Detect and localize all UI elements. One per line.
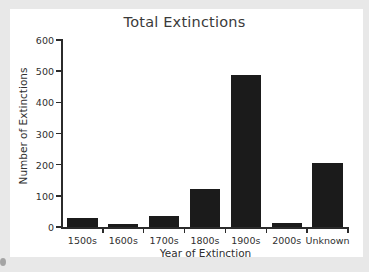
chart-title: Total Extinctions	[0, 14, 369, 30]
corner-artifact	[0, 258, 6, 266]
x-axis-tick-label: 2000s	[272, 235, 301, 246]
x-axis-tick	[102, 227, 103, 233]
x-axis-tick	[306, 227, 307, 233]
x-axis-tick-label: 1900s	[231, 235, 260, 246]
bar-1600s	[108, 224, 138, 227]
figure-frame: Total Extinctions 0100200300400500600 15…	[0, 0, 369, 272]
x-axis-tick	[184, 227, 185, 233]
x-axis-tick	[266, 227, 267, 233]
x-axis-tick-label: 1600s	[109, 235, 138, 246]
x-axis-tick	[143, 227, 144, 233]
bar-1800s	[190, 189, 220, 227]
y-axis-title: Number of Extinctions	[17, 56, 29, 196]
y-axis-tick-label: 0	[20, 222, 54, 233]
x-axis-title: Year of Extinction	[62, 247, 349, 259]
y-axis-tick-label: 600	[20, 35, 54, 46]
x-axis-tick-label: 1700s	[150, 235, 179, 246]
bar-unknown	[312, 163, 342, 227]
bar-1700s	[149, 216, 179, 227]
bar-1500s	[67, 218, 97, 227]
x-axis-tick	[225, 227, 226, 233]
bar-1900s	[231, 75, 261, 227]
bar-series	[62, 40, 349, 227]
x-axis-tick-label: 1800s	[190, 235, 219, 246]
x-axis-tick-label: 1500s	[68, 235, 97, 246]
bar-2000s	[272, 223, 302, 227]
x-axis-tick-label: Unknown	[306, 235, 350, 246]
x-axis-tick	[347, 227, 348, 233]
